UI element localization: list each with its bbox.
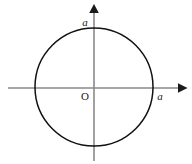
top-radius-label: a (82, 16, 88, 28)
origin-label: O (81, 90, 89, 102)
circle-diagram-figure: a a O (0, 0, 192, 164)
vertical-axis-arrow-icon (89, 4, 99, 13)
horizontal-axis-arrow-icon (178, 83, 188, 93)
coordinate-plane-svg: a a O (0, 0, 192, 164)
right-radius-label: a (157, 90, 163, 102)
